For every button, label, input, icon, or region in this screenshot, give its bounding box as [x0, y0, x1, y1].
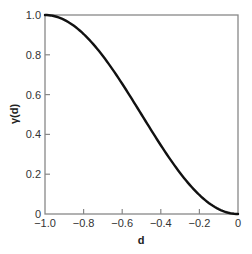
- gamma-curve: [45, 15, 238, 214]
- y-tick-label: 1.0: [26, 9, 41, 21]
- x-axis-ticks: −1.0−0.8−0.6−0.4−0.20: [34, 209, 241, 229]
- y-tick-label: 0.6: [26, 89, 41, 101]
- x-tick-label: −0.6: [111, 217, 133, 229]
- y-axis-label: γ(d): [8, 104, 20, 125]
- line-chart: −1.0−0.8−0.6−0.4−0.20 00.20.40.60.81.0 d…: [0, 0, 252, 254]
- x-axis-label: d: [138, 234, 145, 246]
- y-axis-ticks: 00.20.40.60.81.0: [26, 9, 50, 220]
- x-tick-label: −0.8: [73, 217, 95, 229]
- y-tick-label: 0.4: [26, 128, 41, 140]
- x-tick-label: −0.4: [150, 217, 172, 229]
- y-tick-label: 0.2: [26, 168, 41, 180]
- data-series: [45, 15, 238, 214]
- x-tick-label: 0: [235, 217, 241, 229]
- y-tick-label: 0: [35, 208, 41, 220]
- y-tick-label: 0.8: [26, 49, 41, 61]
- x-tick-label: −0.2: [189, 217, 211, 229]
